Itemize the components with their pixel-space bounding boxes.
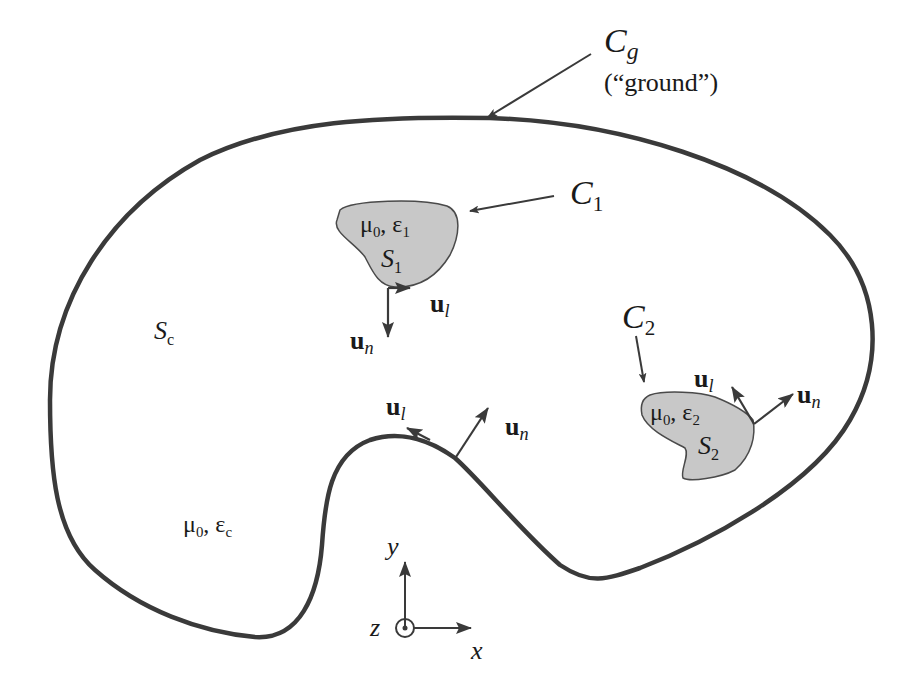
ground-un-label: un xyxy=(505,414,529,444)
contour-1-label: C1 xyxy=(570,176,603,215)
s2-un-label: un xyxy=(797,382,821,412)
conductor-2-material: μ0, ε2 xyxy=(650,400,700,428)
ground-un-vector xyxy=(456,408,488,457)
ground-contour-label: Cg xyxy=(604,24,639,64)
z-axis-dot xyxy=(403,626,408,631)
s2-un-vector xyxy=(754,394,793,424)
diagram-canvas xyxy=(0,0,915,694)
ground-caption: (“ground”) xyxy=(604,70,718,96)
s1-un-label: un xyxy=(350,328,374,358)
y-axis-label: y xyxy=(387,534,399,560)
c2-pointer-arrow xyxy=(636,336,644,382)
z-axis-label: z xyxy=(370,615,380,641)
s1-ul-label: ul xyxy=(430,291,450,321)
c1-pointer-arrow xyxy=(470,196,554,211)
ground-contour xyxy=(50,118,873,638)
ground-ul-label: ul xyxy=(386,394,406,424)
contour-2-label: C2 xyxy=(622,300,655,339)
s2-ul-label: ul xyxy=(694,366,714,396)
conductor-1-region-label: S1 xyxy=(381,246,402,276)
x-axis-label: x xyxy=(471,638,483,664)
conductor-2-region-label: S2 xyxy=(698,433,719,463)
cg-pointer-arrow xyxy=(488,54,591,117)
conductor-1-material: μ0, ε1 xyxy=(360,212,410,240)
region-c-label: Sc xyxy=(154,318,174,348)
region-c-material: μ0, εc xyxy=(183,512,232,540)
